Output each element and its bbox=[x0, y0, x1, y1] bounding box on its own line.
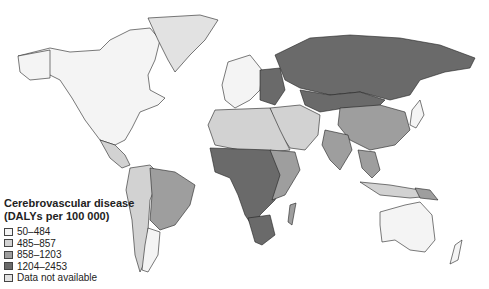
legend-subtitle: (DALYs per 100 000) bbox=[4, 210, 164, 223]
legend-swatch bbox=[4, 239, 13, 247]
region-eastern-europe bbox=[260, 68, 285, 105]
legend-swatch bbox=[4, 262, 13, 270]
map-legend: Cerebrovascular disease (DALYs per 100 0… bbox=[4, 197, 164, 284]
legend-item: Data not available bbox=[4, 272, 164, 284]
choropleth-map: Cerebrovascular disease (DALYs per 100 0… bbox=[0, 0, 489, 289]
region-papua bbox=[415, 188, 438, 200]
legend-item: 485–857 bbox=[4, 238, 164, 250]
region-india bbox=[322, 130, 352, 170]
region-southeast-asia bbox=[358, 150, 380, 178]
legend-label: 485–857 bbox=[17, 238, 56, 249]
region-japan bbox=[410, 100, 424, 128]
legend-swatch bbox=[4, 251, 13, 259]
region-new-zealand bbox=[450, 240, 462, 264]
region-russia bbox=[275, 35, 475, 100]
legend-item: 858–1203 bbox=[4, 249, 164, 261]
legend-item: 50–484 bbox=[4, 226, 164, 238]
region-madagascar bbox=[288, 203, 296, 225]
region-australia bbox=[380, 202, 435, 252]
region-southern-africa bbox=[248, 215, 275, 245]
legend-swatch bbox=[4, 228, 13, 236]
region-western-europe bbox=[222, 55, 262, 108]
region-north-america bbox=[18, 28, 165, 145]
legend-label: Data not available bbox=[17, 272, 97, 283]
legend-item: 1204–2453 bbox=[4, 261, 164, 273]
legend-label: 858–1203 bbox=[17, 249, 62, 260]
legend-title: Cerebrovascular disease bbox=[4, 197, 164, 210]
legend-label: 50–484 bbox=[17, 226, 50, 237]
legend-label: 1204–2453 bbox=[17, 261, 67, 272]
legend-swatch bbox=[4, 274, 13, 282]
